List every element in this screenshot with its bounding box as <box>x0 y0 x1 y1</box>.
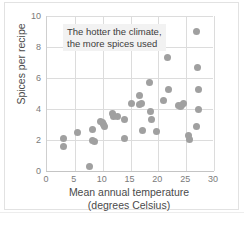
y-tick-label: 4 <box>28 104 41 114</box>
x-tick-label: 25 <box>180 174 190 184</box>
gridline-horizontal <box>47 16 213 17</box>
x-axis-title-line-2: (degrees Celsius) <box>34 199 224 212</box>
x-tick-label: 0 <box>43 174 48 184</box>
scatter-point <box>136 92 143 99</box>
x-tick-label: 10 <box>97 174 107 184</box>
x-axis-line <box>46 171 214 172</box>
chart-annotation: The hotter the climate, the more spices … <box>63 24 166 51</box>
scatter-chart-figure: Spices per recipe 10 8 6 4 2 0 The hotte… <box>0 0 244 225</box>
x-tick-label: 15 <box>124 174 134 184</box>
scatter-point <box>193 123 200 130</box>
annotation-line-1: The hotter the climate, <box>67 26 162 37</box>
y-axis-title: Spices per recipe <box>15 0 27 129</box>
y-tick-label: 2 <box>28 135 41 145</box>
y-tick-label: 0 <box>28 166 41 176</box>
x-axis-title-line-1: Mean annual temperature <box>69 186 189 198</box>
scatter-point <box>114 113 121 120</box>
scatter-point <box>60 143 67 150</box>
scatter-point <box>148 116 155 123</box>
x-tick-label: 30 <box>208 174 218 184</box>
y-tick-label: 6 <box>28 73 41 83</box>
scatter-point <box>121 116 128 123</box>
scatter-point <box>91 138 98 145</box>
gridline-vertical <box>214 16 215 171</box>
scatter-point <box>165 86 172 93</box>
scatter-point <box>60 135 67 142</box>
scatter-point <box>86 163 93 170</box>
gridline-horizontal <box>47 78 213 79</box>
scatter-point <box>101 123 108 130</box>
scatter-point <box>74 129 81 136</box>
scatter-point <box>193 28 200 35</box>
scatter-point <box>186 136 193 143</box>
scatter-point <box>160 97 167 104</box>
gridline-vertical <box>186 16 187 171</box>
y-tick-label: 10 <box>28 11 41 21</box>
x-tick-label: 20 <box>152 174 162 184</box>
scatter-point <box>195 86 202 93</box>
x-tick-label: 5 <box>71 174 76 184</box>
scatter-point <box>164 54 171 61</box>
scatter-point <box>146 79 153 86</box>
scatter-point <box>195 106 202 113</box>
page-bottom-edge <box>0 212 244 225</box>
scatter-point <box>138 100 145 107</box>
scatter-point <box>147 108 154 115</box>
scatter-point <box>128 100 135 107</box>
plot-area: The hotter the climate, the more spices … <box>46 16 213 171</box>
y-tick-label: 8 <box>28 42 41 52</box>
scatter-point <box>194 64 201 71</box>
scatter-point <box>139 127 146 134</box>
x-axis-title: Mean annual temperature (degrees Celsius… <box>34 186 224 211</box>
gridline-horizontal <box>47 109 213 110</box>
scatter-point <box>89 126 96 133</box>
scatter-point <box>180 100 187 107</box>
annotation-line-2: the more spices used <box>67 38 162 50</box>
